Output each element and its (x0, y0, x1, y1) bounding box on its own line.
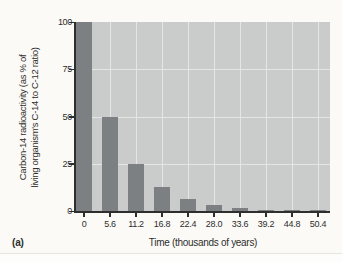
y-tick-mark (69, 116, 74, 118)
y-axis-title-line2: living organism's C-14 to C-12 ratio) (28, 18, 40, 218)
figure-label: (a) (12, 237, 24, 248)
y-tick-mark (69, 211, 74, 213)
y-tick-label: 50 (40, 112, 72, 122)
x-tick-mark (239, 213, 241, 217)
bar (154, 187, 170, 211)
y-tick-mark (69, 22, 74, 24)
x-tick-mark (291, 213, 293, 217)
x-tick-label: 44.8 (279, 219, 305, 229)
x-tick-label: 28.0 (201, 219, 227, 229)
figure-panel: Carbon-14 radioactivity (as % of living … (0, 0, 342, 262)
vertical-gridline (188, 22, 189, 211)
bar (102, 117, 118, 212)
x-tick-mark (109, 213, 111, 217)
vertical-gridline (266, 22, 267, 211)
plot-area: 05.611.216.822.428.033.639.244.850.4 (76, 22, 330, 211)
x-tick-label: 33.6 (227, 219, 253, 229)
bar (128, 164, 144, 211)
x-tick-label: 22.4 (175, 219, 201, 229)
x-tick-mark (161, 213, 163, 217)
vertical-gridline (214, 22, 215, 211)
x-tick-label: 11.2 (123, 219, 149, 229)
vertical-gridline (292, 22, 293, 211)
vertical-gridline (318, 22, 319, 211)
x-tick-mark (83, 213, 85, 217)
y-tick-label: 0 (40, 206, 72, 216)
x-tick-label: 0 (71, 219, 97, 229)
x-tick-mark (135, 213, 137, 217)
x-tick-label: 5.6 (97, 219, 123, 229)
y-axis-title-line1: Carbon-14 radioactivity (as % of (17, 18, 29, 218)
y-axis-tick-labels: 0255075100 (40, 0, 72, 262)
vertical-gridline (240, 22, 241, 211)
y-tick-label: 100 (40, 17, 72, 27)
x-tick-label: 16.8 (149, 219, 175, 229)
bar (180, 199, 196, 211)
x-tick-label: 39.2 (253, 219, 279, 229)
bottom-strip (0, 254, 342, 262)
y-tick-label: 25 (40, 159, 72, 169)
x-tick-label: 50.4 (305, 219, 331, 229)
x-tick-mark (265, 213, 267, 217)
y-axis-line (74, 22, 76, 213)
y-tick-mark (69, 163, 74, 165)
vertical-gridline (162, 22, 163, 211)
x-tick-mark (317, 213, 319, 217)
y-tick-mark (69, 69, 74, 71)
y-axis-title: Carbon-14 radioactivity (as % of living … (17, 18, 40, 218)
bar (76, 22, 92, 211)
x-tick-mark (213, 213, 215, 217)
x-tick-mark (187, 213, 189, 217)
y-tick-label: 75 (40, 64, 72, 74)
x-axis-title: Time (thousands of years) (76, 237, 330, 248)
